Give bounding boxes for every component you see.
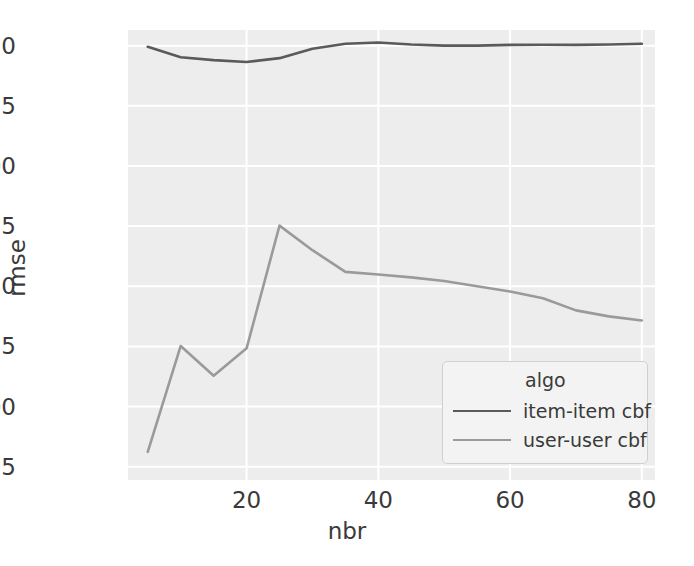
legend-title: algo: [453, 369, 637, 391]
chart-legend: algo item-item cbf user-user cbf: [442, 361, 648, 464]
y-tick-label: 0.850: [0, 273, 16, 299]
legend-label-user-user-cbf: user-user cbf: [523, 429, 647, 451]
legend-swatch-user-user-cbf: [453, 439, 511, 441]
series-line-0: [148, 43, 642, 62]
legend-item-user-user-cbf[interactable]: user-user cbf: [453, 425, 637, 454]
x-axis-label: nbr: [0, 518, 694, 544]
legend-swatch-item-item-cbf: [453, 410, 511, 412]
y-tick-label: 0.800: [0, 394, 16, 420]
y-tick-label: 0.925: [0, 93, 16, 119]
y-tick-label: 0.900: [0, 153, 16, 179]
legend-item-item-item-cbf[interactable]: item-item cbf: [453, 396, 637, 425]
x-tick-label: 20: [232, 487, 261, 513]
x-tick-label: 60: [495, 487, 524, 513]
x-tick-label: 80: [627, 487, 656, 513]
legend-label-item-item-cbf: item-item cbf: [523, 400, 651, 422]
y-tick-label: 0.875: [0, 213, 16, 239]
y-tick-label: 0.775: [0, 454, 16, 480]
chart-figure: rmse 0.7750.8000.8250.8500.8750.9000.925…: [0, 0, 694, 566]
y-tick-label: 0.950: [0, 33, 16, 59]
x-tick-label: 40: [364, 487, 393, 513]
y-tick-label: 0.825: [0, 333, 16, 359]
